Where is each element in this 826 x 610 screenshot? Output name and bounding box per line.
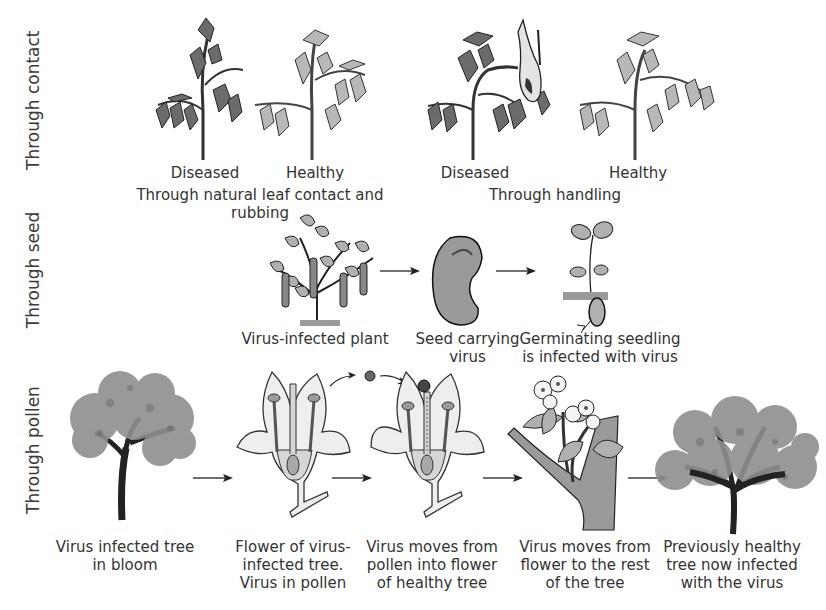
pollen-step-label-1: Virus infected tree in bloom	[55, 538, 195, 574]
seed-step-label-1: Virus-infected plant	[240, 330, 390, 348]
bean-plant-icon	[255, 208, 385, 328]
branch-with-blossoms-icon	[508, 372, 633, 532]
row-label-pollen: Through pollen	[23, 385, 43, 515]
pollen-step-label-2: Flower of virus- infected tree. Virus in…	[228, 538, 358, 592]
arrow-right-icon	[380, 266, 420, 276]
group-caption-handling: Through handling	[480, 186, 630, 204]
arrow-right-icon	[193, 473, 233, 483]
pollen-step-label-5: Previously healthy tree now infected wit…	[657, 538, 807, 592]
row-label-contact: Through contact	[23, 40, 43, 170]
pollen-step-label-4: Virus moves from flower to the rest of t…	[515, 538, 655, 592]
plant-label-diseased: Diseased	[165, 164, 245, 182]
pollen-step-label-3: Virus moves from pollen into flower of h…	[362, 538, 502, 592]
row-label-seed: Through seed	[23, 205, 43, 335]
plant-label-healthy: Healthy	[275, 164, 355, 182]
seedling-icon	[563, 220, 623, 335]
tomato-plant-with-hand-icon	[418, 10, 568, 160]
seed-step-label-3: Germinating seedling is infected with vi…	[515, 330, 685, 366]
tomato-plant-icon	[575, 10, 725, 160]
tomato-plant-icon	[255, 10, 365, 160]
seed-step-label-2: Seed carrying virus	[410, 330, 525, 366]
arrow-right-icon	[496, 266, 536, 276]
flower-cross-section-icon	[232, 372, 357, 527]
large-tree-icon	[655, 392, 820, 537]
tree-icon	[60, 368, 210, 528]
tomato-plant-icon	[148, 10, 238, 160]
plant-label-diseased: Diseased	[435, 164, 515, 182]
plant-label-healthy: Healthy	[598, 164, 678, 182]
flower-cross-section-pollinated-icon	[366, 372, 491, 527]
bean-seed-icon	[430, 233, 490, 328]
